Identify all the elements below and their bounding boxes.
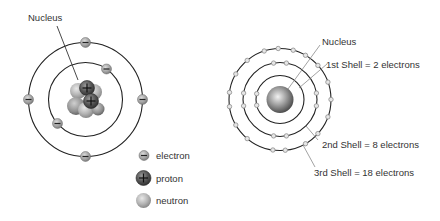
legend-item-electron: electron xyxy=(139,150,190,161)
electron-dot xyxy=(329,97,333,101)
electron-dot xyxy=(303,53,307,57)
electron-dot xyxy=(234,72,238,76)
electron-dot xyxy=(284,134,288,138)
atom-diagrams: Nucleus xyxy=(0,0,440,221)
electron-dot xyxy=(326,80,330,84)
electron-dot xyxy=(227,90,231,94)
electron xyxy=(24,95,34,105)
electron-dot xyxy=(245,136,249,140)
electron xyxy=(102,64,112,74)
electron-dot xyxy=(314,91,318,95)
electron-dot xyxy=(303,142,307,146)
legend-label-proton: proton xyxy=(156,173,183,184)
legend-label-neutron: neutron xyxy=(156,195,188,206)
left-atom: Nucleus xyxy=(24,12,190,208)
electron-dot xyxy=(241,91,245,95)
electron-dot xyxy=(316,131,320,135)
shell-3-label: 3rd Shell = 18 electrons xyxy=(314,167,414,178)
electron-dot xyxy=(271,134,275,138)
legend-item-proton: proton xyxy=(136,171,183,186)
electron-dot xyxy=(326,115,330,119)
shell-3-leader-line xyxy=(303,145,315,167)
nucleus-sphere xyxy=(267,86,294,113)
legend-item-neutron: neutron xyxy=(136,193,188,208)
legend: electron proton neutron xyxy=(136,150,190,208)
electron-dot xyxy=(255,103,259,107)
electron-dot xyxy=(291,48,295,52)
right-atom: Nucleus 1st Shell = 2 electrons 2nd Shel… xyxy=(227,36,420,178)
electron-dot xyxy=(314,104,318,108)
legend-label-electron: electron xyxy=(156,150,190,161)
electron-dot xyxy=(271,148,275,152)
electron-dot xyxy=(245,58,249,62)
electron-icon xyxy=(139,151,149,161)
electron xyxy=(138,95,148,105)
proton xyxy=(80,81,95,96)
proton-icon xyxy=(136,171,151,186)
shell-2-label: 2nd Shell = 8 electrons xyxy=(322,139,419,150)
electron-dot xyxy=(241,104,245,108)
electron-dot xyxy=(276,46,280,50)
shell-1-label: 1st Shell = 2 electrons xyxy=(326,59,420,70)
electron-dot xyxy=(316,63,320,67)
electron-dot xyxy=(283,148,287,152)
electron-dot xyxy=(262,49,266,53)
nucleus-cluster xyxy=(67,81,105,119)
nucleus-label: Nucleus xyxy=(28,12,63,23)
electron-dot xyxy=(255,92,259,96)
proton xyxy=(84,94,99,109)
nucleus-label: Nucleus xyxy=(322,36,357,47)
electron-dot xyxy=(227,104,231,108)
electron xyxy=(81,152,91,162)
electron xyxy=(53,119,63,129)
electron-dot xyxy=(271,61,275,65)
electron-dot xyxy=(284,61,288,65)
neutron-icon xyxy=(136,193,151,208)
electron-dot xyxy=(234,123,238,127)
electron xyxy=(81,38,91,48)
